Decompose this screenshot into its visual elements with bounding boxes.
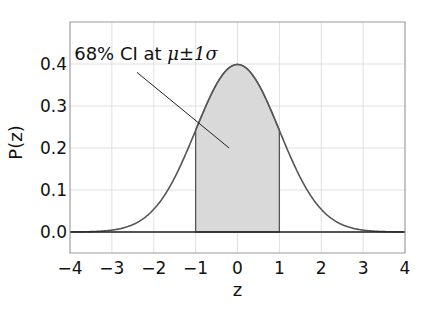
y-tick-label: 0.1 <box>40 180 67 200</box>
x-tick-label: 1 <box>274 258 285 278</box>
annotation-text: 68% CI at <box>74 43 167 64</box>
y-axis-ticks: 0.00.10.20.30.4 <box>40 54 67 242</box>
x-tick-label: 4 <box>400 258 411 278</box>
x-tick-label: 2 <box>316 258 327 278</box>
x-axis-ticks: −4−3−2−101234 <box>57 258 410 278</box>
annotation-math: μ±1σ <box>167 43 218 64</box>
y-axis-label: P(z) <box>5 125 26 159</box>
y-tick-label: 0.2 <box>40 138 67 158</box>
shaded-ci-region <box>196 64 280 232</box>
y-tick-label: 0.3 <box>40 96 67 116</box>
y-tick-label: 0.0 <box>40 222 67 242</box>
annotation-label: 68% CI at μ±1σ <box>74 43 218 64</box>
y-tick-label: 0.4 <box>40 54 67 74</box>
x-tick-label: 0 <box>232 258 243 278</box>
x-tick-label: −1 <box>183 258 208 278</box>
x-tick-label: −3 <box>99 258 124 278</box>
x-tick-label: −4 <box>57 258 82 278</box>
x-tick-label: 3 <box>358 258 369 278</box>
x-axis-label: z <box>233 279 242 300</box>
x-tick-label: −2 <box>141 258 166 278</box>
chart: −4−3−2−101234 0.00.10.20.30.4 z P(z) 68%… <box>0 0 430 312</box>
